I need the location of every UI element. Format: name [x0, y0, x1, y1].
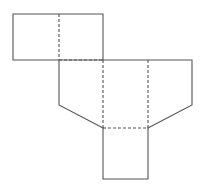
net-diagram [0, 0, 205, 194]
left-wall [59, 60, 103, 128]
bottom-square [103, 128, 148, 179]
top-rect [13, 14, 103, 60]
